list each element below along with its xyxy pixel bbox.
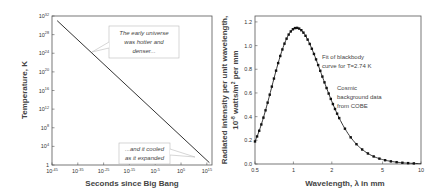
data-point [296, 27, 298, 29]
data-point [302, 31, 304, 33]
temperature-chart: 1104108101210161020102410281032 10-4510-… [20, 13, 212, 189]
data-point [327, 92, 329, 94]
data-point [294, 27, 296, 29]
tick-label: 1020 [39, 68, 49, 75]
annotation-hot-line1: The early universe [119, 30, 169, 36]
annotation-fit-line1: Fit of blackbody [322, 54, 364, 60]
data-point [413, 162, 415, 164]
x-axis-ticks: 0.512510 [251, 162, 424, 174]
data-point [321, 75, 323, 77]
tick-label: 108 [41, 124, 49, 131]
tick-label: 1032 [39, 13, 49, 20]
data-point [285, 37, 287, 39]
tick-label: 2 [330, 167, 333, 173]
data-point [262, 116, 264, 118]
data-point [311, 48, 313, 50]
data-point [390, 160, 392, 162]
annotation-cooled-line2: as it expanded [125, 155, 165, 161]
tick-label: 0.4 [244, 114, 252, 120]
cobe-data-markers [254, 27, 415, 165]
tick-label: 10-45 [46, 168, 58, 175]
annotation-cobe-line2: background data [337, 94, 382, 100]
data-point [290, 30, 292, 32]
tick-label: 1.0 [244, 43, 252, 49]
tick-label: 10-35 [72, 168, 84, 175]
tick-label: 10-25 [98, 168, 110, 175]
tick-label: 5 [381, 167, 384, 173]
data-point [334, 108, 336, 110]
tick-label: 10-5 [150, 168, 160, 175]
data-point [367, 152, 369, 154]
annotation-pointer [92, 42, 109, 52]
y-axis-label-line1: Radiated intensity per unit wavelength, [220, 16, 229, 164]
data-point [319, 70, 321, 72]
annotation-hot-line2: was hotter and [124, 39, 164, 45]
data-point [273, 77, 275, 79]
tick-label: 10-15 [124, 168, 136, 175]
tick-label: 104 [41, 143, 49, 150]
tick-label: 1012 [39, 106, 49, 113]
tick-label: 1028 [39, 31, 49, 38]
data-point [269, 93, 271, 95]
data-point [323, 81, 325, 83]
data-point [304, 35, 306, 37]
figure: 1104108101210161020102410281032 10-4510-… [0, 0, 447, 196]
annotation-cobe-line3: from COBE [337, 103, 368, 109]
tick-label: 0.8 [244, 66, 252, 72]
data-point [336, 112, 338, 114]
data-point [325, 87, 327, 89]
tick-label: 0.6 [244, 90, 252, 96]
data-point [378, 157, 380, 159]
x-axis-label: Seconds since Big Bang [85, 179, 178, 188]
data-point [355, 143, 357, 145]
annotation-pointer [170, 149, 195, 157]
data-point [266, 101, 268, 103]
data-point [260, 123, 262, 125]
tick-label: 0.5 [251, 167, 259, 173]
data-point [298, 27, 300, 29]
annotation-hot-line3: denser... [132, 48, 155, 54]
data-point [254, 140, 256, 142]
data-point [317, 64, 319, 66]
data-point [313, 53, 315, 55]
data-point [372, 155, 374, 157]
data-point [283, 42, 285, 44]
blackbody-chart: 0.00.20.40.60.81.01.2 0.512510 Fit of bl… [220, 16, 424, 188]
data-point [407, 162, 409, 164]
data-point [292, 28, 294, 30]
data-point [361, 148, 363, 150]
tick-label: 10 [418, 167, 424, 173]
y-axis-label: Temperature, K [20, 61, 29, 119]
tick-label: 1.2 [244, 19, 252, 25]
data-point [300, 29, 302, 31]
data-point [258, 130, 260, 132]
data-point [281, 48, 283, 50]
annotation-cobe-line1: Cosmic [337, 85, 357, 91]
data-point [287, 33, 289, 35]
tick-label: 1 [292, 167, 295, 173]
data-point [277, 62, 279, 64]
data-point [309, 43, 311, 45]
y-axis-label-line2: 10-8 watts/m2 per mm [230, 50, 240, 129]
data-point [332, 103, 334, 105]
data-point [315, 58, 317, 60]
data-point [384, 159, 386, 161]
tick-label: 1016 [39, 87, 49, 94]
data-point [264, 109, 266, 111]
annotation-cooled-line1: ...and it cooled [125, 146, 165, 152]
data-point [275, 69, 277, 71]
y-axis-ticks: 0.00.20.40.60.81.01.2 [244, 19, 257, 167]
data-point [338, 117, 340, 119]
data-point [306, 38, 308, 40]
data-point [401, 162, 403, 164]
data-point [256, 135, 258, 137]
tick-label: 105 [177, 168, 185, 175]
data-point [344, 127, 346, 129]
tick-label: 0.2 [244, 137, 252, 143]
x-axis-label: Wavelength, λ in mm [305, 179, 384, 188]
data-point [279, 55, 281, 57]
data-point [395, 161, 397, 163]
data-point [271, 85, 273, 87]
tick-label: 1015 [202, 168, 212, 175]
data-point [349, 136, 351, 138]
